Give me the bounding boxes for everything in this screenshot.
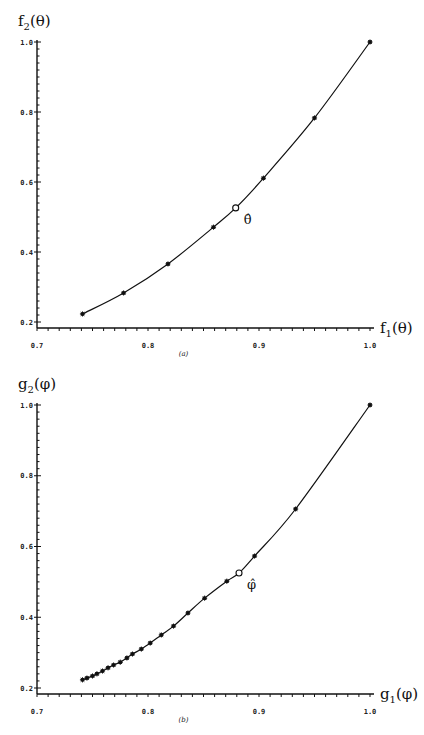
data-point-marker bbox=[367, 39, 372, 44]
chart-panel-b: 0.20.40.60.81.00.70.80.91.0g2(φ)g1(φ)(b)… bbox=[18, 375, 418, 724]
data-point-marker bbox=[185, 610, 190, 615]
estimate-marker bbox=[233, 205, 239, 211]
data-point-marker bbox=[159, 632, 164, 637]
panel-caption: (b) bbox=[179, 716, 189, 724]
x-tick-label: 0.9 bbox=[253, 708, 266, 716]
figure: 0.20.40.60.81.00.70.80.91.0f2(θ)f1(θ)(a)… bbox=[0, 0, 424, 735]
data-point-marker bbox=[105, 665, 110, 670]
y-tick-label: 0.8 bbox=[20, 109, 33, 117]
data-point-marker bbox=[124, 655, 129, 660]
y-tick-label: 0.4 bbox=[20, 614, 33, 622]
x-axis-title: f1(θ) bbox=[380, 319, 413, 339]
data-point-marker bbox=[111, 662, 116, 667]
data-point-marker bbox=[367, 402, 372, 407]
data-point-marker bbox=[130, 651, 135, 656]
y-tick-label: 0.6 bbox=[20, 179, 33, 187]
estimate-label: φ̂ bbox=[247, 577, 256, 592]
y-tick-label: 1.0 bbox=[20, 402, 33, 410]
y-tick-label: 1.0 bbox=[20, 39, 33, 47]
data-point-marker bbox=[224, 579, 229, 584]
data-point-marker bbox=[211, 225, 216, 230]
data-point-marker bbox=[312, 115, 317, 120]
y-tick-label: 0.8 bbox=[20, 472, 33, 480]
data-point-marker bbox=[100, 668, 105, 673]
x-tick-label: 1.0 bbox=[364, 342, 377, 350]
data-point-marker bbox=[171, 623, 176, 628]
data-point-marker bbox=[121, 290, 126, 295]
y-tick-label: 0.4 bbox=[20, 249, 33, 257]
data-point-marker bbox=[80, 311, 85, 316]
x-tick-label: 0.7 bbox=[31, 708, 44, 716]
data-point-marker bbox=[148, 640, 153, 645]
data-point-marker bbox=[94, 671, 99, 676]
x-tick-label: 0.9 bbox=[253, 342, 266, 350]
data-point-marker bbox=[165, 261, 170, 266]
curve-line bbox=[83, 42, 370, 314]
data-point-marker bbox=[252, 553, 257, 558]
data-point-marker bbox=[261, 176, 266, 181]
data-point-marker bbox=[202, 596, 207, 601]
y-axis-title: g2(φ) bbox=[18, 375, 56, 395]
chart-panel-a: 0.20.40.60.81.00.70.80.91.0f2(θ)f1(θ)(a)… bbox=[18, 12, 413, 358]
panel-caption: (a) bbox=[179, 350, 189, 358]
data-point-marker bbox=[84, 675, 89, 680]
x-tick-label: 0.7 bbox=[31, 342, 44, 350]
x-tick-label: 0.8 bbox=[142, 342, 155, 350]
data-point-marker bbox=[293, 506, 298, 511]
x-axis-title: g1(φ) bbox=[380, 685, 418, 705]
estimate-marker bbox=[236, 570, 242, 576]
y-tick-label: 0.2 bbox=[20, 685, 33, 693]
x-tick-label: 0.8 bbox=[142, 708, 155, 716]
y-axis-title: f2(θ) bbox=[18, 12, 51, 32]
y-tick-label: 0.6 bbox=[20, 543, 33, 551]
data-point-marker bbox=[80, 677, 85, 682]
y-tick-label: 0.2 bbox=[20, 319, 33, 327]
x-tick-label: 1.0 bbox=[364, 708, 377, 716]
data-point-marker bbox=[90, 673, 95, 678]
estimate-label: θ̂ bbox=[244, 212, 252, 227]
data-point-marker bbox=[118, 660, 123, 665]
data-point-marker bbox=[139, 646, 144, 651]
curve-line bbox=[83, 405, 370, 680]
